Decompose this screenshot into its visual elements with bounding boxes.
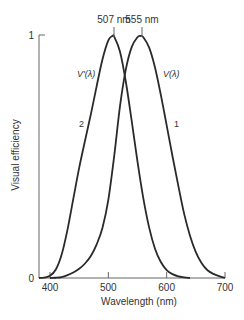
curve-number-1: 1	[174, 119, 179, 129]
luminous-efficiency-chart: 1 0 400500600700 Visual efficiency Wavel…	[0, 0, 244, 320]
curve-number-2: 2	[79, 119, 84, 129]
x-ticks: 400500600700	[42, 272, 234, 293]
x-axis-label: Wavelength (nm)	[101, 296, 177, 307]
x-tick-label-600: 600	[158, 282, 175, 293]
y-axis-label: Visual efficiency	[10, 119, 21, 190]
y-tick-label-0: 0	[28, 273, 34, 284]
x-tick-label-500: 500	[100, 282, 117, 293]
curve-label-v-prime: V'(λ)	[77, 69, 95, 79]
y-tick-label-1: 1	[28, 30, 34, 41]
curve-label-v: V(λ)	[163, 69, 179, 79]
peak-label-555: 555 nm	[125, 14, 158, 25]
x-tick-label-400: 400	[42, 282, 59, 293]
x-tick-label-700: 700	[217, 282, 234, 293]
